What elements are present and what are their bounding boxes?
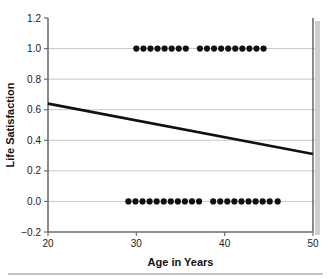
plot-shadow-right bbox=[315, 21, 320, 235]
data-point-32 bbox=[231, 198, 237, 204]
y-tick-label-3: 0.4 bbox=[27, 135, 41, 146]
data-point-26 bbox=[182, 198, 188, 204]
y-tick-label-4: 0.6 bbox=[27, 104, 41, 115]
y-tick-label-1: 0.0 bbox=[27, 196, 41, 207]
x-tick-label-1: 30 bbox=[131, 238, 143, 249]
data-point-38 bbox=[275, 198, 281, 204]
data-point-13 bbox=[232, 45, 238, 51]
regression-line bbox=[48, 104, 313, 154]
y-tick-label-7: 1.2 bbox=[27, 13, 41, 24]
data-point-16 bbox=[253, 45, 259, 51]
data-point-11 bbox=[218, 45, 224, 51]
data-point-31 bbox=[224, 198, 230, 204]
y-tick-label-6: 1.0 bbox=[27, 43, 41, 54]
data-point-8 bbox=[197, 45, 203, 51]
data-point-0 bbox=[133, 45, 139, 51]
y-tick-label-2: 0.2 bbox=[27, 165, 41, 176]
data-point-12 bbox=[225, 45, 231, 51]
y-tick-label-5: 0.8 bbox=[27, 74, 41, 85]
data-point-24 bbox=[168, 198, 174, 204]
data-point-21 bbox=[146, 198, 152, 204]
x-axis-title: Age in Years bbox=[148, 256, 214, 268]
data-point-18 bbox=[125, 198, 131, 204]
data-point-5 bbox=[169, 45, 175, 51]
data-point-6 bbox=[176, 45, 182, 51]
data-point-27 bbox=[189, 198, 195, 204]
data-point-34 bbox=[245, 198, 251, 204]
data-point-10 bbox=[211, 45, 217, 51]
x-tick-label-3: 50 bbox=[307, 238, 319, 249]
data-point-35 bbox=[252, 198, 258, 204]
data-point-1 bbox=[140, 45, 146, 51]
data-point-3 bbox=[154, 45, 160, 51]
data-point-23 bbox=[161, 198, 167, 204]
data-point-29 bbox=[210, 198, 216, 204]
data-point-15 bbox=[246, 45, 252, 51]
data-point-37 bbox=[267, 198, 273, 204]
data-point-14 bbox=[239, 45, 245, 51]
data-point-4 bbox=[162, 45, 168, 51]
data-point-28 bbox=[196, 198, 202, 204]
data-point-2 bbox=[147, 45, 153, 51]
data-point-19 bbox=[132, 198, 138, 204]
data-point-33 bbox=[238, 198, 244, 204]
data-point-22 bbox=[154, 198, 160, 204]
data-point-36 bbox=[260, 198, 266, 204]
y-axis-title: Life Satisfaction bbox=[4, 82, 16, 167]
chart-figure: −0.20.00.20.40.60.81.01.220304050Age in … bbox=[0, 0, 331, 279]
y-tick-label-0: −0.2 bbox=[21, 227, 41, 238]
x-tick-label-2: 40 bbox=[219, 238, 231, 249]
data-point-20 bbox=[139, 198, 145, 204]
data-point-7 bbox=[183, 45, 189, 51]
data-point-30 bbox=[217, 198, 223, 204]
data-point-17 bbox=[260, 45, 266, 51]
data-point-25 bbox=[175, 198, 181, 204]
data-point-9 bbox=[204, 45, 210, 51]
scatter-plot: −0.20.00.20.40.60.81.01.220304050Age in … bbox=[0, 0, 331, 279]
x-tick-label-0: 20 bbox=[42, 238, 54, 249]
